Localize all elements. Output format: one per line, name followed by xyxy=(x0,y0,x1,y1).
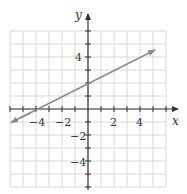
x-tick-label: 2 xyxy=(110,116,117,129)
y-tick-label: −4 xyxy=(70,156,86,169)
x-tick-label: −2 xyxy=(55,116,71,129)
x-tick-label: 4 xyxy=(136,116,143,129)
coordinate-plane: y x −4 −2 2 4 4 −2 −4 xyxy=(0,0,187,194)
x-axis-label: x xyxy=(172,114,179,128)
y-tick-label: 4 xyxy=(75,51,82,64)
data-line-start xyxy=(11,113,30,123)
x-tick-label: −4 xyxy=(29,116,45,129)
y-tick-label: −2 xyxy=(70,130,86,143)
y-axis-label: y xyxy=(74,8,82,22)
